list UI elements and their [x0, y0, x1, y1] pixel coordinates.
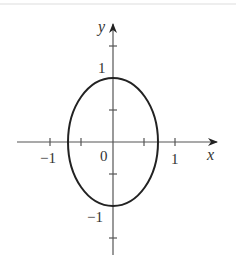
origin-label: 0 — [100, 148, 108, 164]
x-axis-label: x — [206, 146, 214, 163]
x-tick-label-neg-one: −1 — [40, 150, 56, 166]
x-tick-label-pos-one: 1 — [171, 151, 179, 167]
ellipse-diagram: y x 0 −1 1 1 −1 — [0, 0, 236, 263]
y-tick-label-pos-one: 1 — [98, 60, 106, 76]
y-tick-label-neg-one: −1 — [87, 209, 103, 225]
y-axis-label: y — [96, 18, 106, 36]
